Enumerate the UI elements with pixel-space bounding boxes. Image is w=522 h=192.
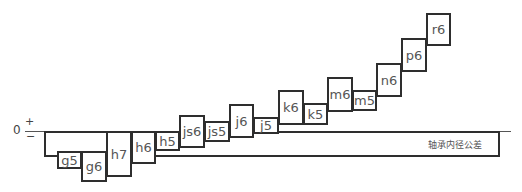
fit-zone-label: g5 bbox=[61, 154, 78, 167]
fit-zone-m5: m5 bbox=[352, 90, 377, 111]
fit-zone-label: js6 bbox=[183, 125, 202, 138]
fit-zone-label: h7 bbox=[111, 148, 128, 161]
fit-zone-label: r6 bbox=[432, 23, 446, 36]
fit-zone-r6: r6 bbox=[426, 13, 451, 46]
bearing-bore-label: 轴承内径公差 bbox=[428, 138, 482, 151]
fit-zone-j5: j5 bbox=[253, 117, 279, 134]
fit-zone-js6: js6 bbox=[179, 115, 205, 148]
fit-zone-n6: n6 bbox=[376, 63, 402, 97]
fit-zone-h6: h6 bbox=[131, 131, 156, 164]
fit-zone-label: p6 bbox=[406, 49, 423, 62]
fit-zone-label: n6 bbox=[381, 74, 398, 87]
fit-zone-js5: js5 bbox=[204, 121, 230, 142]
fit-zone-label: js5 bbox=[208, 125, 227, 138]
fit-zone-k6: k6 bbox=[278, 90, 304, 125]
fit-zone-p6: p6 bbox=[401, 38, 427, 72]
fit-zone-label: k6 bbox=[283, 101, 299, 114]
fit-zone-j6: j6 bbox=[229, 104, 254, 138]
fit-zone-g6: g6 bbox=[81, 151, 107, 182]
fit-zone-h5: h5 bbox=[155, 131, 180, 151]
fit-zone-label: h5 bbox=[159, 135, 176, 148]
fit-zone-label: m5 bbox=[354, 94, 375, 107]
fit-zone-label: h6 bbox=[135, 141, 152, 154]
fit-zone-label: g6 bbox=[86, 160, 103, 173]
fit-zone-label: j6 bbox=[236, 115, 248, 128]
fit-zone-label: m6 bbox=[330, 88, 351, 101]
fit-zone-h7: h7 bbox=[106, 131, 132, 177]
fit-zone-k5: k5 bbox=[303, 103, 328, 125]
fit-zone-g5: g5 bbox=[57, 151, 82, 169]
fit-zone-label: k5 bbox=[308, 108, 324, 121]
fit-zone-m6: m6 bbox=[327, 77, 353, 112]
zero-label: 0 bbox=[13, 123, 21, 137]
plus-label: + bbox=[25, 115, 34, 128]
fit-zone-label: j5 bbox=[260, 119, 272, 132]
